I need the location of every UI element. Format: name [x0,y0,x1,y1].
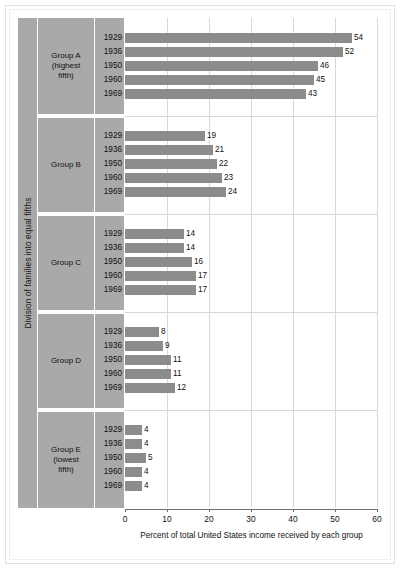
bar-value-label: 14 [186,243,195,253]
bar [125,243,184,253]
year-label: 1969 [104,383,122,393]
year-label: 1929 [104,131,122,141]
bar [125,453,146,463]
year-label: 1950 [104,453,122,463]
bar [125,355,171,365]
year-label: 1950 [104,159,122,169]
bar [125,229,184,239]
group-label: Group C [51,258,81,268]
year-label: 1960 [104,369,122,379]
bar [125,187,226,197]
year-label: 1929 [104,327,122,337]
group-label-cell: Group A(highestfifth) [38,18,94,114]
bar-value-label: 5 [148,453,153,463]
x-axis-tick-label: 10 [162,514,171,524]
x-axis-tick [293,509,294,512]
bar [125,61,318,71]
group-label-cell: Group D [38,314,94,408]
bar [125,33,352,43]
bar [125,369,171,379]
band-separator-left [38,214,125,215]
band-separator [125,116,377,117]
year-label: 1950 [104,355,122,365]
chart-page: Division of families into equal fifths G… [0,0,402,571]
bar [125,173,222,183]
bar-value-label: 11 [173,369,182,379]
bar [125,467,142,477]
band-separator-left [38,116,125,117]
y-axis-title-panel: Division of families into equal fifths [18,18,37,508]
y-axis-title: Division of families into equal fifths [23,198,32,329]
bar [125,257,192,267]
band-separator [125,214,377,215]
bar-value-label: 23 [224,173,233,183]
year-label: 1969 [104,187,122,197]
x-axis-tick [125,509,126,512]
bar-value-label: 52 [345,47,354,57]
x-axis-tick [377,509,378,512]
year-label: 1936 [104,439,122,449]
year-label: 1936 [104,243,122,253]
bar-value-label: 4 [144,467,149,477]
bar-value-label: 54 [354,33,363,43]
x-axis-tick-label: 40 [288,514,297,524]
bar-value-label: 4 [144,481,149,491]
bar-value-label: 19 [207,131,216,141]
bar [125,327,159,337]
bar-value-label: 8 [161,327,166,337]
group-label: Group B [51,160,81,170]
bar-value-label: 4 [144,425,149,435]
bar-value-label: 24 [228,187,237,197]
year-label: 1969 [104,481,122,491]
plot-area: 5452464543192122232414141617178911111244… [125,18,377,508]
bar-value-label: 17 [198,271,207,281]
year-label: 1960 [104,173,122,183]
year-label: 1929 [104,229,122,239]
bar-value-label: 16 [194,257,203,267]
gridline [377,18,378,508]
year-label: 1929 [104,425,122,435]
group-label-cell: Group E(lowestfifth) [38,412,94,508]
bar [125,75,314,85]
x-axis-tick-label: 60 [372,514,381,524]
group-label: Group E(lowestfifth) [51,445,81,475]
year-label: 1929 [104,33,122,43]
group-label: Group A(highestfifth) [51,51,80,81]
year-label: 1936 [104,145,122,155]
bar [125,481,142,491]
band-separator-left [38,312,125,313]
bar [125,271,196,281]
bar [125,439,142,449]
year-label: 1960 [104,75,122,85]
bar [125,383,175,393]
x-axis-tick [251,509,252,512]
bar [125,131,205,141]
bar-value-label: 17 [198,285,207,295]
year-label: 1969 [104,285,122,295]
band-separator [125,410,377,411]
bar-value-label: 11 [173,355,182,365]
bar-value-label: 43 [308,89,317,99]
bar [125,89,306,99]
bar [125,425,142,435]
bar-value-label: 12 [177,383,186,393]
year-label: 1960 [104,271,122,281]
bar-value-label: 21 [215,145,224,155]
year-column: 1929193619501960196919291936195019601969… [95,18,124,508]
bar-value-label: 9 [165,341,170,351]
x-axis-tick [209,509,210,512]
year-label: 1950 [104,257,122,267]
x-axis-tick-label: 50 [330,514,339,524]
group-label: Group D [51,356,81,366]
band-separator [125,312,377,313]
bar-value-label: 46 [320,61,329,71]
bar [125,159,217,169]
bar-value-label: 45 [316,75,325,85]
bar [125,145,213,155]
x-axis-tick-label: 30 [246,514,255,524]
band-separator-left [38,410,125,411]
x-axis-tick-label: 20 [204,514,213,524]
year-label: 1936 [104,341,122,351]
year-label: 1960 [104,467,122,477]
bar-value-label: 22 [219,159,228,169]
